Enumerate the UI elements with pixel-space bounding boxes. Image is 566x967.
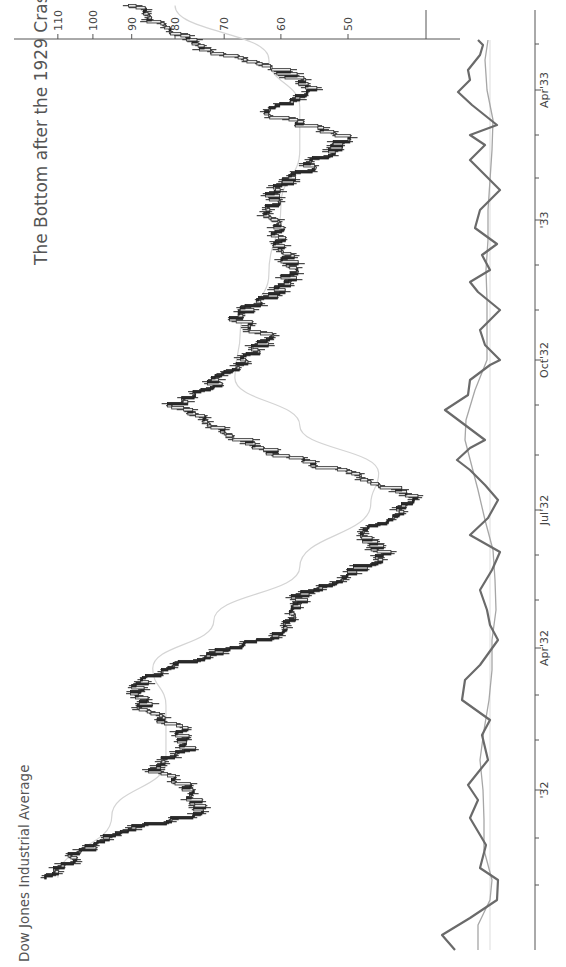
candlestick-series	[41, 4, 424, 879]
time-tick-label: Oct'32	[538, 342, 551, 378]
chart-title: The Bottom after the 1929 Crash	[31, 0, 51, 266]
oscillator-main-line	[442, 40, 500, 950]
price-tick-label: 50	[342, 17, 355, 31]
time-tick-label: Apr'32	[538, 630, 551, 666]
price-tick-label: 70	[218, 17, 231, 31]
time-axis-ticks: Apr'33'33Oct'32Jul'32Apr'32'32	[535, 44, 551, 885]
price-tick-label: 90	[126, 17, 139, 31]
price-tick-label: 100	[87, 10, 100, 31]
oscillator-signal-line	[465, 40, 496, 950]
chart-subtitle: Dow Jones Industrial Average	[16, 765, 32, 962]
price-axis-ticks: 1101009080706050	[52, 10, 355, 39]
time-tick-label: Jul'32	[538, 495, 551, 526]
time-tick-label: '33	[538, 211, 551, 228]
chart-canvas: 1101009080706050 Apr'33'33Oct'32Jul'32Ap…	[0, 0, 566, 967]
moving-average-line	[58, 5, 379, 877]
time-tick-label: '32	[538, 781, 551, 798]
price-tick-label: 110	[52, 10, 65, 31]
time-tick-label: Apr'33	[538, 72, 551, 108]
price-tick-label: 60	[275, 17, 288, 31]
